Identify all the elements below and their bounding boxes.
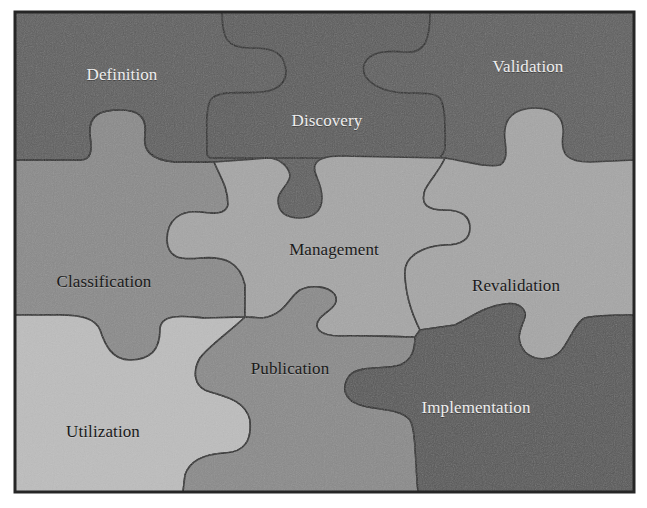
label-validation: Validation <box>493 57 564 77</box>
label-publication: Publication <box>251 359 330 379</box>
label-implementation: Implementation <box>421 398 530 418</box>
label-management: Management <box>289 240 379 260</box>
label-revalidation: Revalidation <box>472 276 560 296</box>
label-utilization: Utilization <box>66 422 140 442</box>
label-classification: Classification <box>57 272 152 292</box>
label-definition: Definition <box>87 65 158 85</box>
label-discovery: Discovery <box>292 111 363 131</box>
